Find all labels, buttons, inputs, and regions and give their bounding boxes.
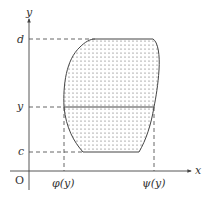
dotted-region: [64, 39, 159, 152]
level-d-label: d: [17, 33, 24, 46]
region-diagram: y x O d y c φ(y) ψ(y): [0, 0, 213, 204]
level-c-label: c: [18, 145, 24, 158]
level-y-label: y: [16, 100, 24, 113]
psi-label: ψ(y): [142, 177, 165, 190]
x-axis-label: x: [195, 164, 202, 177]
phi-label: φ(y): [52, 177, 75, 190]
origin-label: O: [15, 174, 24, 187]
y-axis-label: y: [25, 6, 33, 19]
